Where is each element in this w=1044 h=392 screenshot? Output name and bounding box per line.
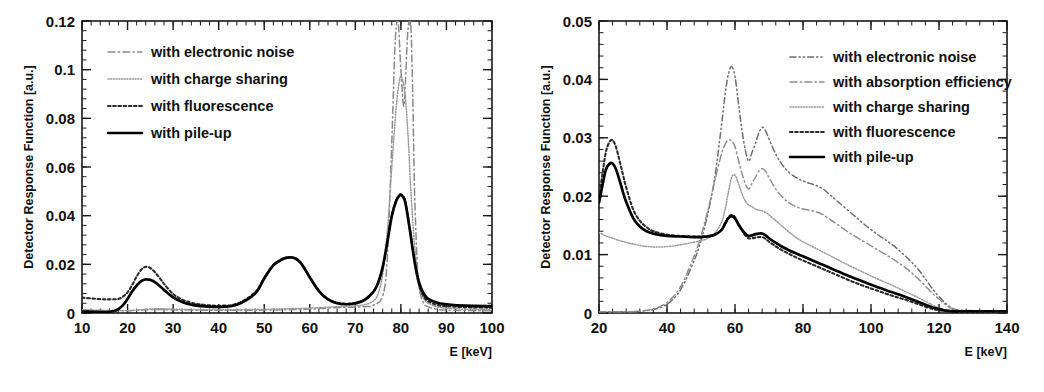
legend-label: with electronic noise <box>832 49 976 65</box>
x-axis-label: E [keV] <box>450 345 492 359</box>
x-tick-label: 20 <box>119 319 136 336</box>
x-tick-label: 60 <box>301 319 318 336</box>
y-tick-label: 0.02 <box>46 256 75 273</box>
y-tick-label: 0.08 <box>46 110 75 127</box>
y-tick-label: 0.04 <box>563 71 593 88</box>
x-tick-label: 40 <box>659 319 676 336</box>
legend-label: with pile-up <box>150 125 232 141</box>
plot-frame <box>82 21 492 313</box>
y-tick-label: 0.06 <box>46 159 75 176</box>
x-tick-label: 140 <box>994 319 1019 336</box>
chart-panel-right: 2040608010012014000.010.020.030.040.05E … <box>522 0 1044 392</box>
x-axis-label: E [keV] <box>965 345 1007 359</box>
x-tick-label: 30 <box>165 319 182 336</box>
x-tick-label: 10 <box>74 319 91 336</box>
x-tick-label: 40 <box>210 319 227 336</box>
chart-svg-right: 2040608010012014000.010.020.030.040.05E … <box>522 0 1044 392</box>
x-tick-label: 80 <box>795 319 812 336</box>
y-tick-label: 0.1 <box>54 61 75 78</box>
x-tick-label: 60 <box>727 319 744 336</box>
y-axis-label: Detector Response Function [a.u.] <box>22 65 36 269</box>
x-tick-label: 100 <box>479 319 504 336</box>
x-tick-label: 80 <box>393 319 410 336</box>
x-tick-label: 90 <box>438 319 455 336</box>
legend-label: with pile-up <box>832 149 914 165</box>
legend-label: with electronic noise <box>150 44 294 60</box>
x-tick-label: 100 <box>858 319 883 336</box>
x-tick-label: 20 <box>591 319 608 336</box>
legend-label: with absorption efficiency <box>832 74 1012 90</box>
legend-label: with charge sharing <box>150 71 288 87</box>
legend-label: with charge sharing <box>832 99 970 115</box>
y-tick-label: 0.04 <box>46 207 76 224</box>
y-tick-label: 0.03 <box>563 129 592 146</box>
y-tick-label: 0 <box>584 305 592 322</box>
legend-label: with fluorescence <box>832 124 955 140</box>
legend-label: with fluorescence <box>150 98 273 114</box>
chart-panel-left: 10203040506070809010000.020.040.060.080.… <box>0 0 522 392</box>
y-tick-label: 0.02 <box>563 188 592 205</box>
y-tick-label: 0.05 <box>563 13 592 30</box>
x-tick-label: 120 <box>926 319 951 336</box>
y-axis-label: Detector Response Function [a.u.] <box>539 65 553 269</box>
chart-svg-left: 10203040506070809010000.020.040.060.080.… <box>0 0 522 392</box>
y-tick-label: 0.12 <box>46 13 75 30</box>
y-tick-label: 0 <box>67 305 75 322</box>
x-tick-label: 70 <box>347 319 364 336</box>
detector-response-figure: 10203040506070809010000.020.040.060.080.… <box>0 0 1044 392</box>
y-tick-label: 0.01 <box>563 246 592 263</box>
x-tick-label: 50 <box>256 319 273 336</box>
